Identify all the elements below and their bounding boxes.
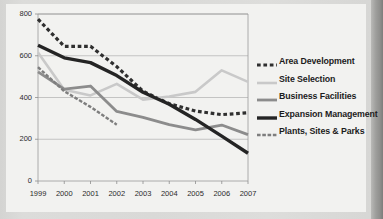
y-axis-tick-label: 0 bbox=[6, 176, 32, 185]
series-line-4 bbox=[38, 67, 117, 124]
legend-item-label: Site Selection bbox=[279, 74, 335, 84]
series-layer bbox=[38, 19, 248, 153]
legend-item-4[interactable]: Plants, Sites & Parks bbox=[256, 126, 364, 136]
x-axis-tick-label: 2005 bbox=[184, 189, 208, 198]
legend-swatch-icon bbox=[256, 126, 278, 136]
y-axis-tick-label: 600 bbox=[6, 51, 32, 60]
x-axis-tick-label: 2003 bbox=[131, 189, 155, 198]
legend-item-3[interactable]: Expansion Management bbox=[256, 109, 378, 119]
chart-card: 0200400600800 19992000200120022003200420… bbox=[6, 4, 366, 212]
x-axis-tick-label: 2007 bbox=[236, 189, 260, 198]
x-axis-tick-label: 2001 bbox=[79, 189, 103, 198]
x-axis-tick-label: 2002 bbox=[105, 189, 129, 198]
y-axis-tick-label: 200 bbox=[6, 134, 32, 143]
chart-screenshot: 0200400600800 19992000200120022003200420… bbox=[0, 0, 383, 219]
y-axis-tick-label: 800 bbox=[6, 9, 32, 18]
legend-swatch-icon bbox=[256, 91, 278, 101]
legend-swatch-icon bbox=[256, 74, 278, 84]
legend-item-label: Plants, Sites & Parks bbox=[279, 126, 364, 136]
legend-item-label: Business Facilities bbox=[279, 91, 356, 101]
legend-item-1[interactable]: Site Selection bbox=[256, 74, 335, 84]
x-axis-tick-label: 2000 bbox=[52, 189, 76, 198]
x-axis-tick-label: 2006 bbox=[210, 189, 234, 198]
legend-item-label: Expansion Management bbox=[279, 109, 378, 119]
legend-item-label: Area Development bbox=[279, 56, 355, 66]
gridlines bbox=[38, 14, 248, 181]
legend-item-2[interactable]: Business Facilities bbox=[256, 91, 356, 101]
x-axis-tick-label: 1999 bbox=[26, 189, 50, 198]
legend-item-0[interactable]: Area Development bbox=[256, 56, 355, 66]
x-axis-tick-label: 2004 bbox=[157, 189, 181, 198]
legend-swatch-icon bbox=[256, 56, 278, 66]
legend-swatch-icon bbox=[256, 109, 278, 119]
y-axis-tick-label: 400 bbox=[6, 93, 32, 102]
series-line-2 bbox=[38, 72, 248, 135]
